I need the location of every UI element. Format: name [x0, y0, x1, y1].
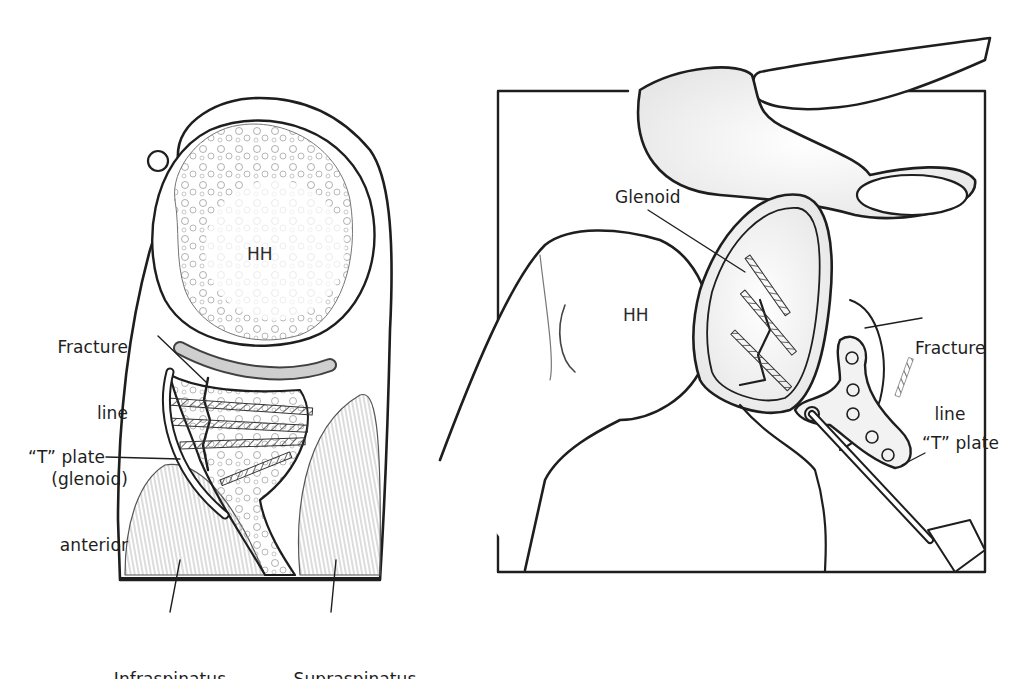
- humerus: [440, 230, 711, 570]
- right-panel-drawing: [440, 38, 990, 572]
- clavicle: [753, 38, 990, 109]
- label-line: anterior: [18, 534, 128, 556]
- left-panel-drawing: [106, 98, 392, 612]
- label-line: line: [18, 402, 128, 424]
- label-line: Infraspinatus: [95, 668, 245, 679]
- coracoid-circle: [148, 151, 168, 171]
- label-humeral-head-left: HH: [247, 244, 273, 264]
- label-fracture-line-left: Fracture line (glenoid) anterior: [18, 292, 128, 578]
- label-line: Fracture: [915, 337, 985, 359]
- label-line: Supraspinatus: [280, 668, 430, 679]
- label-t-plate-right: “T” plate: [922, 432, 999, 454]
- label-line: line: [915, 403, 985, 425]
- label-fracture-line-right: Fracture line: [915, 293, 985, 447]
- anatomical-illustration: [0, 0, 1013, 679]
- label-line: Fracture: [18, 336, 128, 358]
- label-t-plate-left: “T” plate: [28, 446, 105, 468]
- label-supraspinatus: Supraspinatus muscle: [280, 624, 430, 679]
- label-humeral-head-right: HH: [623, 305, 649, 325]
- label-line: (glenoid): [18, 468, 128, 490]
- label-glenoid: Glenoid: [615, 186, 681, 208]
- label-infraspinatus: Infraspinatus muscle: [95, 624, 245, 679]
